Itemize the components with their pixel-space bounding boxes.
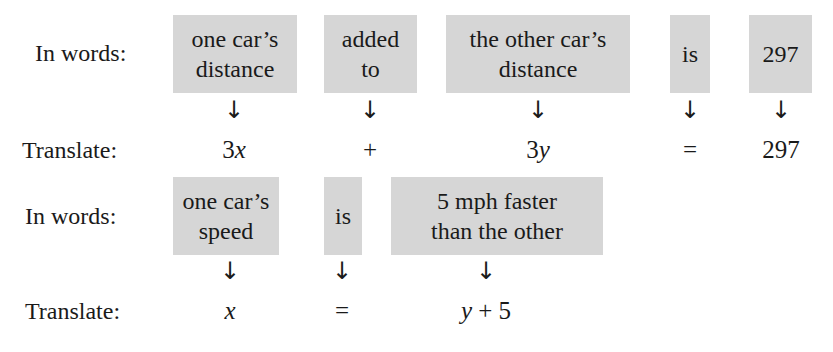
phrase-box-5mph-faster: 5 mph fasterthan the other (391, 177, 603, 255)
phrase-line: distance (499, 56, 578, 82)
translation-x: x (200, 297, 260, 325)
phrase-box-is: is (324, 177, 362, 255)
phrase-line: than the other (431, 218, 563, 244)
math-term: 3y (526, 136, 550, 163)
translation-297: 297 (751, 136, 811, 164)
phrase-line: one car’s (183, 188, 270, 214)
translation-y-plus-5: y + 5 (446, 297, 526, 325)
translate-label: Translate: (22, 136, 117, 164)
translate-label: Translate: (25, 297, 120, 325)
in-words-label: In words: (25, 202, 116, 230)
phrase-box-one-cars-distance: one car’sdistance (173, 15, 297, 93)
down-arrow-icon: ↓ (214, 96, 254, 124)
down-arrow-icon: ↓ (670, 96, 710, 124)
math-term: x (224, 297, 235, 324)
phrase-line: 297 (763, 39, 799, 69)
phrase-box-one-cars-speed: one car’sspeed (173, 177, 279, 255)
phrase-line: added (342, 26, 399, 52)
down-arrow-icon: ↓ (322, 257, 362, 285)
phrase-line: distance (196, 56, 275, 82)
down-arrow-icon: ↓ (210, 257, 250, 285)
phrase-line: 5 mph faster (437, 188, 557, 214)
in-words-label: In words: (35, 39, 126, 67)
translation-3y: 3y (508, 136, 568, 164)
phrase-box-added-to: addedto (324, 15, 417, 93)
translation-3x: 3x (204, 136, 264, 164)
math-term: y + 5 (461, 297, 511, 324)
down-arrow-icon: ↓ (518, 96, 558, 124)
math-term: 3x (222, 136, 246, 163)
translation-plus: + (340, 136, 400, 164)
phrase-line: one car’s (192, 26, 279, 52)
phrase-line: speed (199, 218, 254, 244)
phrase-line: is (335, 201, 351, 231)
phrase-box-is: is (670, 15, 710, 93)
down-arrow-icon: ↓ (761, 96, 801, 124)
phrase-box-other-cars-distance: the other car’sdistance (446, 15, 630, 93)
phrase-line: is (682, 39, 698, 69)
phrase-line: to (361, 56, 380, 82)
translation-equals: = (660, 136, 720, 164)
phrase-box-297: 297 (749, 15, 812, 93)
translation-equals: = (312, 297, 372, 325)
phrase-line: the other car’s (470, 26, 607, 52)
down-arrow-icon: ↓ (466, 257, 506, 285)
down-arrow-icon: ↓ (350, 96, 390, 124)
